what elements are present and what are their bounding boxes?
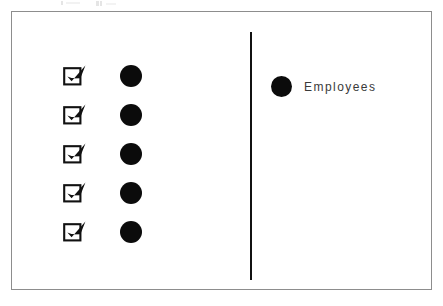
filled-circle-icon [120, 221, 142, 243]
filled-circle-icon [120, 182, 142, 204]
ballot-box-with-check-icon[interactable] [63, 64, 87, 88]
filled-circle-icon [120, 104, 142, 126]
scan-artifact [100, 1, 102, 6]
ballot-box-with-check-icon[interactable] [63, 103, 87, 127]
scan-artifact [96, 1, 99, 6]
scan-artifact [106, 3, 116, 5]
ballot-box-with-check-icon[interactable] [63, 142, 87, 166]
ballot-box-with-check-icon[interactable] [63, 220, 87, 244]
legend: Employees [271, 76, 376, 97]
filled-circle-icon [120, 65, 142, 87]
diagram-frame: Employees [11, 11, 432, 290]
diagram-canvas: Employees [0, 0, 443, 306]
ballot-box-with-check-icon[interactable] [63, 181, 87, 205]
legend-label: Employees [304, 80, 376, 94]
scan-artifact [66, 2, 80, 4]
filled-circle-icon [271, 76, 292, 97]
filled-circle-icon [120, 143, 142, 165]
scan-artifact [61, 1, 63, 5]
vertical-divider [250, 32, 252, 280]
